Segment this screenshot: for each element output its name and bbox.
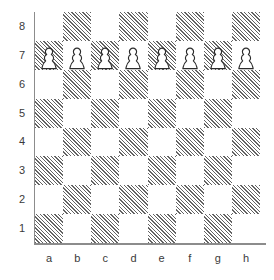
square-c8[interactable] [91,12,119,41]
file-label-axis: abcdefgh [35,249,260,267]
square-g1[interactable] [204,214,232,243]
square-a6[interactable] [35,70,63,99]
chess-board[interactable] [35,12,260,243]
square-c7[interactable] [91,41,119,70]
file-label-b: b [63,249,91,267]
square-a7[interactable] [35,41,63,70]
horizontal-axis-line [34,243,266,245]
square-g4[interactable] [204,128,232,157]
square-f7[interactable] [176,41,204,70]
square-d3[interactable] [119,156,147,185]
rank-label-8: 8 [12,12,32,41]
rank-label-4: 4 [12,128,32,157]
white-pawn-icon[interactable] [91,41,119,70]
square-h4[interactable] [232,128,260,157]
square-d6[interactable] [119,70,147,99]
square-f4[interactable] [176,128,204,157]
square-h1[interactable] [232,214,260,243]
square-f3[interactable] [176,156,204,185]
square-g6[interactable] [204,70,232,99]
square-h2[interactable] [232,185,260,214]
square-e8[interactable] [148,12,176,41]
square-f8[interactable] [176,12,204,41]
square-c2[interactable] [91,185,119,214]
square-a5[interactable] [35,99,63,128]
square-e7[interactable] [148,41,176,70]
file-label-e: e [148,249,176,267]
square-d2[interactable] [119,185,147,214]
square-b1[interactable] [63,214,91,243]
file-label-d: d [119,249,147,267]
file-label-a: a [35,249,63,267]
square-a1[interactable] [35,214,63,243]
square-e5[interactable] [148,99,176,128]
file-label-g: g [204,249,232,267]
file-label-h: h [232,249,260,267]
square-e4[interactable] [148,128,176,157]
square-c4[interactable] [91,128,119,157]
square-c1[interactable] [91,214,119,243]
white-pawn-icon[interactable] [204,41,232,70]
rank-label-6: 6 [12,70,32,99]
file-label-f: f [176,249,204,267]
square-a8[interactable] [35,12,63,41]
rank-label-1: 1 [12,214,32,243]
rank-label-7: 7 [12,41,32,70]
square-h5[interactable] [232,99,260,128]
square-a4[interactable] [35,128,63,157]
square-f6[interactable] [176,70,204,99]
file-label-c: c [91,249,119,267]
square-c3[interactable] [91,156,119,185]
square-g5[interactable] [204,99,232,128]
square-g7[interactable] [204,41,232,70]
square-f5[interactable] [176,99,204,128]
square-b4[interactable] [63,128,91,157]
square-g3[interactable] [204,156,232,185]
square-e1[interactable] [148,214,176,243]
square-b8[interactable] [63,12,91,41]
square-b3[interactable] [63,156,91,185]
square-d8[interactable] [119,12,147,41]
square-c5[interactable] [91,99,119,128]
white-pawn-icon[interactable] [232,41,260,70]
square-e6[interactable] [148,70,176,99]
square-c6[interactable] [91,70,119,99]
square-b2[interactable] [63,185,91,214]
square-h7[interactable] [232,41,260,70]
square-a2[interactable] [35,185,63,214]
white-pawn-icon[interactable] [176,41,204,70]
square-h3[interactable] [232,156,260,185]
white-pawn-icon[interactable] [119,41,147,70]
white-pawn-icon[interactable] [35,41,63,70]
square-d7[interactable] [119,41,147,70]
rank-label-3: 3 [12,156,32,185]
square-h6[interactable] [232,70,260,99]
square-e3[interactable] [148,156,176,185]
white-pawn-icon[interactable] [63,41,91,70]
rank-label-5: 5 [12,99,32,128]
square-f1[interactable] [176,214,204,243]
square-b5[interactable] [63,99,91,128]
rank-label-2: 2 [12,185,32,214]
square-a3[interactable] [35,156,63,185]
square-f2[interactable] [176,185,204,214]
square-b7[interactable] [63,41,91,70]
rank-label-axis: 87654321 [12,12,32,243]
square-e2[interactable] [148,185,176,214]
chess-diagram: 87654321 abcdefgh [0,0,274,280]
white-pawn-icon[interactable] [148,41,176,70]
square-d1[interactable] [119,214,147,243]
square-h8[interactable] [232,12,260,41]
square-g2[interactable] [204,185,232,214]
square-b6[interactable] [63,70,91,99]
square-d4[interactable] [119,128,147,157]
square-d5[interactable] [119,99,147,128]
square-g8[interactable] [204,12,232,41]
